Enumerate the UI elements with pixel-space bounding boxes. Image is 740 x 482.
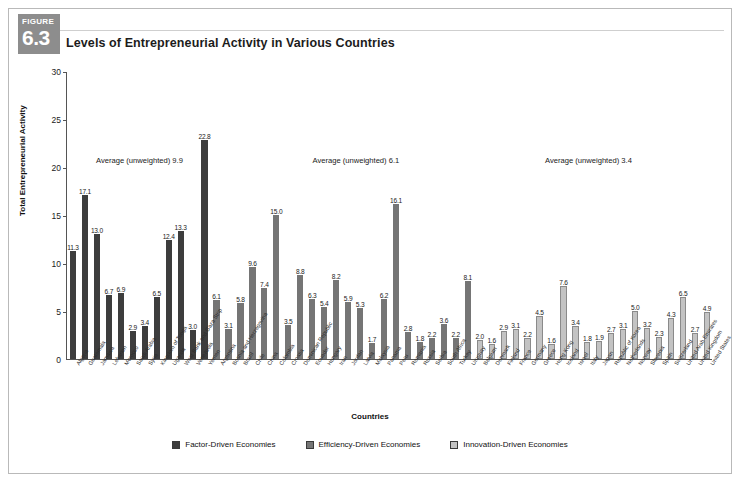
bar-value-label: 13.3	[175, 224, 187, 231]
bar-value-label: 3.5	[284, 318, 293, 325]
bar-value-label: 2.0	[475, 333, 484, 340]
y-tick-mark	[63, 120, 67, 121]
bar: 12.4	[166, 240, 172, 359]
bar-value-label: 3.1	[511, 322, 520, 329]
legend-item[interactable]: Innovation-Driven Economies	[450, 440, 568, 449]
bar-value-label: 3.4	[140, 319, 149, 326]
bar-value-label: 3.1	[619, 322, 628, 329]
legend-item[interactable]: Efficiency-Driven Economies	[306, 440, 421, 449]
bar-value-label: 1.8	[583, 335, 592, 342]
bar-value-label: 8.8	[296, 268, 305, 275]
figure-number-badge: FIGURE 6.3	[18, 14, 60, 54]
legend-label: Innovation-Driven Economies	[463, 440, 568, 449]
bar-value-label: 6.5	[679, 290, 688, 297]
bar-value-label: 2.2	[523, 331, 532, 338]
bar: 16.1	[393, 204, 399, 359]
bar-value-label: 22.8	[199, 133, 211, 140]
plot-area: 051015202530 11.317.113.06.76.92.93.46.5…	[66, 72, 712, 360]
bar-value-label: 1.6	[547, 337, 556, 344]
bar: 6.5	[154, 297, 160, 359]
y-tick-mark	[63, 264, 67, 265]
page-title: Levels of Entrepreneurial Activity in Va…	[66, 36, 395, 50]
bar-value-label: 6.3	[308, 292, 317, 299]
y-tick-mark	[63, 312, 67, 313]
bar-value-label: 11.3	[67, 244, 79, 251]
bar-value-label: 8.2	[332, 273, 341, 280]
bar-value-label: 1.9	[595, 334, 604, 341]
bar-value-label: 3.6	[440, 317, 449, 324]
bar-value-label: 1.7	[368, 336, 377, 343]
bar: 15.0	[273, 215, 279, 359]
bar-value-label: 7.4	[260, 281, 269, 288]
bar-value-label: 13.0	[91, 227, 103, 234]
bar: 9.6	[249, 267, 255, 359]
bar-value-label: 5.9	[344, 295, 353, 302]
bar-value-label: 2.2	[428, 331, 437, 338]
bar-value-label: 7.6	[559, 279, 568, 286]
bar-value-label: 6.1	[212, 293, 221, 300]
legend-swatch	[172, 441, 180, 449]
bar-value-label: 2.2	[451, 331, 460, 338]
bar-value-label: 5.8	[236, 296, 245, 303]
bar-value-label: 2.8	[404, 325, 413, 332]
title-divider	[60, 30, 724, 31]
bar-value-label: 5.3	[356, 301, 365, 308]
y-tick-mark	[63, 168, 67, 169]
bar-value-label: 9.6	[248, 260, 257, 267]
average-annotation: Average (unweighted) 6.1	[312, 156, 399, 165]
bar-value-label: 5.4	[320, 300, 329, 307]
legend-swatch	[450, 441, 458, 449]
bar-value-label: 1.6	[487, 337, 496, 344]
x-axis-label: Countries	[0, 412, 740, 421]
legend-swatch	[306, 441, 314, 449]
bar-value-label: 2.7	[691, 326, 700, 333]
bar-value-label: 1.8	[416, 335, 425, 342]
y-axis-label: Total Entrepreneurial Activity	[18, 105, 27, 216]
bar-value-label: 15.0	[270, 208, 282, 215]
average-annotation: Average (unweighted) 9.9	[96, 156, 183, 165]
figure-page: FIGURE 6.3 Levels of Entrepreneurial Act…	[0, 0, 740, 482]
y-tick-label: 0	[56, 355, 67, 365]
legend-label: Factor-Driven Economies	[185, 440, 275, 449]
bar-value-label: 5.0	[631, 304, 640, 311]
y-tick-mark	[63, 72, 67, 73]
bar-value-label: 2.9	[499, 324, 508, 331]
bar: 17.1	[82, 195, 88, 359]
y-tick-mark	[63, 216, 67, 217]
bar: 8.8	[297, 275, 303, 359]
figure-number: 6.3	[22, 27, 60, 49]
bar-value-label: 12.4	[163, 233, 175, 240]
bar-value-label: 3.2	[643, 321, 652, 328]
bar-value-label: 3.4	[571, 319, 580, 326]
bar: 11.3	[70, 251, 76, 359]
average-annotation: Average (unweighted) 3.4	[545, 156, 632, 165]
bar-value-label: 3.1	[224, 322, 233, 329]
bar-value-label: 4.5	[535, 309, 544, 316]
bar-value-label: 6.9	[117, 286, 126, 293]
bar-value-label: 2.3	[655, 330, 664, 337]
bar-value-label: 6.7	[105, 288, 114, 295]
bar-value-label: 6.5	[152, 290, 161, 297]
bar-value-label: 3.0	[188, 323, 197, 330]
bar-value-label: 4.3	[667, 311, 676, 318]
legend-item[interactable]: Factor-Driven Economies	[172, 440, 275, 449]
bar: 13.0	[94, 234, 100, 359]
bar-value-label: 16.1	[390, 197, 402, 204]
bar-value-label: 2.9	[128, 324, 137, 331]
bar-value-label: 2.7	[607, 326, 616, 333]
legend-label: Efficiency-Driven Economies	[319, 440, 421, 449]
bar-value-label: 8.1	[463, 274, 472, 281]
bar: 8.1	[465, 281, 471, 359]
bar-value-label: 6.2	[380, 292, 389, 299]
bar: 5.9	[345, 302, 351, 359]
chart-legend: Factor-Driven EconomiesEfficiency-Driven…	[0, 440, 740, 449]
bar-value-label: 4.9	[703, 305, 712, 312]
bar-value-label: 17.1	[79, 188, 91, 195]
